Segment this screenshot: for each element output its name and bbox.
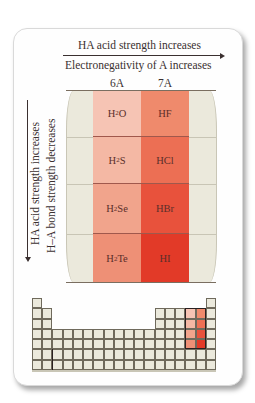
periodic-cell — [93, 339, 103, 349]
table-top-border — [66, 90, 216, 91]
periodic-cell — [63, 360, 73, 370]
periodic-cell — [165, 360, 175, 370]
horizontal-arrow-icon — [63, 55, 221, 56]
cell-h2te: H2Te — [93, 234, 141, 283]
periodic-cell — [175, 349, 185, 359]
periodic-cell — [63, 349, 73, 359]
periodic-cell — [32, 308, 42, 318]
periodic-cell — [196, 349, 206, 359]
periodic-cell — [83, 339, 93, 349]
table-bottom-border — [66, 282, 216, 283]
table-side-right — [189, 90, 217, 283]
cell-h2se: H2Se — [93, 184, 141, 234]
periodic-cell — [83, 329, 93, 339]
group-label-6a: 6A — [93, 77, 141, 89]
periodic-cell — [134, 349, 144, 359]
periodic-cell — [73, 360, 83, 370]
periodic-cell — [63, 339, 73, 349]
periodic-cell — [104, 360, 114, 370]
periodic-cell — [165, 349, 175, 359]
periodic-cell — [104, 349, 114, 359]
periodic-cell — [144, 339, 154, 349]
cell-hi: HI — [141, 234, 189, 283]
periodic-cell — [32, 360, 42, 370]
periodic-cell — [185, 360, 195, 370]
periodic-cell — [206, 308, 216, 318]
cell-h2s: H2S — [93, 137, 141, 184]
periodic-cell — [175, 319, 185, 329]
periodic-cell — [73, 339, 83, 349]
periodic-cell — [155, 339, 165, 349]
cell-hbr: HBr — [141, 184, 189, 234]
vertical-arrow-icon — [27, 100, 28, 258]
periodic-cell — [155, 319, 165, 329]
periodic-cell — [124, 360, 134, 370]
periodic-cell — [155, 349, 165, 359]
periodic-cell — [52, 329, 62, 339]
left-acid-strength-label: HA acid strength increases — [29, 122, 41, 245]
periodic-cell — [93, 329, 103, 339]
periodic-cell — [32, 329, 42, 339]
periodic-cell — [63, 329, 73, 339]
periodic-cell — [32, 298, 42, 308]
periodic-cell — [93, 349, 103, 359]
left-bond-strength-label: H–A bond strength decreases — [45, 119, 57, 253]
periodic-cell — [42, 319, 52, 329]
periodic-cell — [134, 329, 144, 339]
lanthanide-divider — [52, 349, 54, 370]
periodic-cell — [175, 360, 185, 370]
periodic-cell — [144, 360, 154, 370]
periodic-cell — [114, 349, 124, 359]
cell-h2o: H2O — [93, 90, 141, 137]
periodic-cell — [165, 329, 175, 339]
group-label-7a: 7A — [141, 77, 189, 89]
periodic-cell — [114, 339, 124, 349]
periodic-cell — [206, 339, 216, 349]
periodic-cell — [124, 329, 134, 339]
periodic-cell — [155, 308, 165, 318]
periodic-cell — [83, 360, 93, 370]
periodic-cell — [32, 319, 42, 329]
periodic-table-shadow — [32, 370, 216, 372]
periodic-cell — [42, 308, 52, 318]
periodic-cell — [206, 319, 216, 329]
periodic-cell — [52, 360, 62, 370]
periodic-cell — [206, 329, 216, 339]
periodic-cell — [32, 339, 42, 349]
periodic-cell — [134, 339, 144, 349]
periodic-cell — [165, 319, 175, 329]
acid-table: H2O HF H2S HCl H2Se HBr H2Te HI — [66, 90, 216, 283]
periodic-cell — [155, 329, 165, 339]
periodic-cell — [83, 349, 93, 359]
periodic-cell — [206, 298, 216, 308]
cell-hf: HF — [141, 90, 189, 137]
periodic-cell — [175, 339, 185, 349]
header-acid-strength-label: HA acid strength increases — [78, 39, 201, 51]
periodic-cell — [134, 360, 144, 370]
periodic-cell — [185, 349, 195, 359]
highlight-box — [185, 308, 205, 349]
periodic-cell — [155, 360, 165, 370]
periodic-cell — [175, 308, 185, 318]
periodic-cell — [196, 360, 206, 370]
periodic-cell — [52, 339, 62, 349]
header-electronegativity-label: Electronegativity of A increases — [65, 59, 212, 71]
periodic-cell — [144, 349, 154, 359]
periodic-cell — [32, 349, 42, 359]
periodic-cell — [124, 339, 134, 349]
periodic-cell — [165, 339, 175, 349]
table-side-left — [66, 90, 94, 283]
periodic-cell — [114, 329, 124, 339]
cell-hcl: HCl — [141, 137, 189, 184]
periodic-cell — [206, 360, 216, 370]
periodic-cell — [73, 329, 83, 339]
periodic-cell — [42, 339, 52, 349]
periodic-cell — [93, 360, 103, 370]
periodic-cell — [144, 329, 154, 339]
periodic-cell — [165, 308, 175, 318]
periodic-cell — [42, 329, 52, 339]
periodic-table-mini — [32, 298, 216, 370]
periodic-cell — [73, 349, 83, 359]
periodic-cell — [52, 349, 62, 359]
periodic-cell — [104, 339, 114, 349]
